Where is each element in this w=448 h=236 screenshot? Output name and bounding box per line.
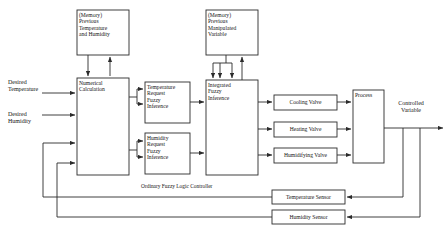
branch-numerical-to-humidity-fuzzy	[129, 141, 143, 150]
block-humidity-request-fuzzy-inference	[145, 133, 190, 174]
block-diagram-canvas: (Memory) Previous Temperature and Humidi…	[0, 0, 448, 236]
block-cooling-valve	[274, 95, 337, 110]
branch-numerical-to-temp-fuzzy	[129, 89, 143, 97]
block-memory-previous-manipulated-variable	[206, 10, 258, 55]
block-numerical-calculation	[77, 78, 129, 175]
block-rectangles	[77, 10, 384, 224]
block-process	[353, 90, 384, 163]
branch-numerical-to-humidity-fuzzy-2	[137, 150, 143, 157]
block-humidity-sensor	[272, 210, 345, 224]
block-temperature-sensor	[272, 190, 345, 204]
block-temperature-request-fuzzy-inference	[145, 82, 190, 123]
block-heating-valve	[274, 122, 337, 137]
block-humidifying-valve	[274, 148, 337, 163]
diagram-svg	[0, 0, 448, 236]
block-memory-previous-temp-humidity	[77, 10, 129, 55]
branch-numerical-to-temp-fuzzy-2	[137, 97, 143, 104]
block-integrated-fuzzy-inference	[206, 80, 258, 175]
